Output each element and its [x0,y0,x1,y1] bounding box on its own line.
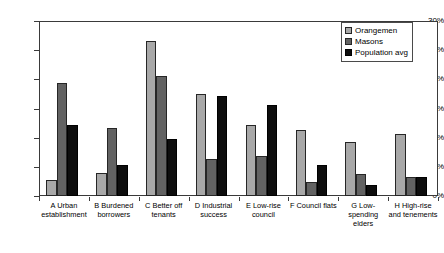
bar [196,94,207,196]
legend-label-masons: Masons [355,37,383,46]
legend-label-population-avg: Population avg [355,48,408,57]
bar [146,41,157,196]
legend-swatch-icon-population-avg [345,49,352,56]
x-axis-category-label: G Low-spending elders [338,201,388,228]
bar [67,125,78,196]
bar [306,182,317,196]
x-axis-category-label: F Council flats [288,201,338,210]
bar [206,159,217,196]
x-axis-category-label: E Low-rise council [239,201,289,219]
chart-legend: Orangemen Masons Population avg [341,22,413,62]
bar [345,142,356,196]
bar [46,180,57,196]
bar [57,83,68,196]
x-axis-category-label: H High-rise and tenements [388,201,438,219]
bar [217,96,228,196]
legend-item-population-avg: Population avg [345,47,408,58]
bar [395,134,406,196]
legend-item-masons: Masons [345,36,408,47]
legend-swatch-icon-orangemen [345,27,352,34]
bar [296,130,307,197]
legend-item-orangemen: Orangemen [345,25,408,36]
x-axis-category-label: B Burdened borrowers [89,201,139,219]
bar [267,105,278,196]
bar [107,128,118,196]
legend-swatch-icon-masons [345,38,352,45]
bar [416,177,427,196]
bar [256,156,267,196]
bar [96,173,107,196]
bar [167,139,178,196]
bar [317,165,328,196]
x-axis-category-label: A Urban establishment [39,201,89,219]
bar [356,174,367,196]
x-axis-category-label: C Better off tenants [139,201,189,219]
x-axis-category-label: D Industrial success [189,201,239,219]
legend-label-orangemen: Orangemen [355,26,397,35]
bar [156,76,167,196]
bar [117,165,128,197]
bar [406,177,417,196]
x-axis-tick [438,197,439,201]
grouped-bar-chart: 0%5%10%15%20%25%30% A Urban establishmen… [0,0,444,253]
bar [246,125,257,196]
bar [366,185,377,196]
